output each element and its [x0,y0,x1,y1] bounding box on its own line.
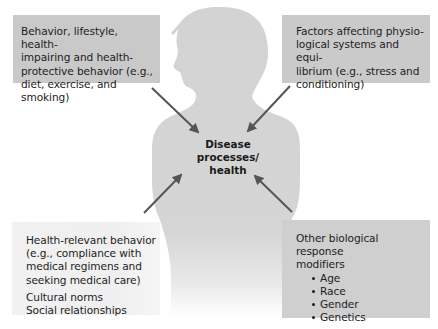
list-item-age: Age [312,272,426,285]
box-bl-line-3: medical regimens and [26,260,156,273]
box-tr-line-4: conditioning) [296,78,424,91]
list-item-race: Race [312,285,426,298]
box-tl-line-1: Behavior, lifestyle, health- [21,25,154,51]
list-item-genetics: Genetics [312,311,426,324]
box-health-relevant-behavior: Health-relevant behavior (e.g., complian… [12,222,160,315]
box-behavior-lifestyle: Behavior, lifestyle, health- impairing a… [13,15,160,83]
box-tl-line-2: impairing and health- [21,51,154,64]
box-bl-social-relationships: Social relationships [26,304,156,317]
box-tl-line-4: diet, exercise, and smoking) [21,78,154,104]
box-bl-line-2: (e.g., compliance with [26,247,156,260]
box-br-heading-1: Other biological response [296,232,426,258]
center-label-line-1: Disease processes/ [178,138,278,164]
box-tl-line-3: protective behavior (e.g., [21,65,154,78]
box-biological-modifiers: Other biological response modifiers Age … [282,220,430,318]
box-physiological-factors: Factors affecting physio- logical system… [282,15,430,83]
box-tr-line-1: Factors affecting physio- [296,25,424,38]
list-item-gender: Gender [312,298,426,311]
box-br-heading-2: modifiers [296,258,426,271]
box-tr-line-3: librium (e.g., stress and [296,65,424,78]
box-bl-line-1: Health-relevant behavior [26,234,156,247]
box-bl-line-4: seeking medical care) [26,274,156,287]
center-label-disease-processes: Disease processes/ health [178,138,278,177]
box-tr-line-2: logical systems and equi- [296,38,424,64]
center-label-line-2: health [178,164,278,177]
modifier-list: Age Race Gender Genetics [296,272,426,325]
box-bl-cultural-norms: Cultural norms [26,291,156,304]
